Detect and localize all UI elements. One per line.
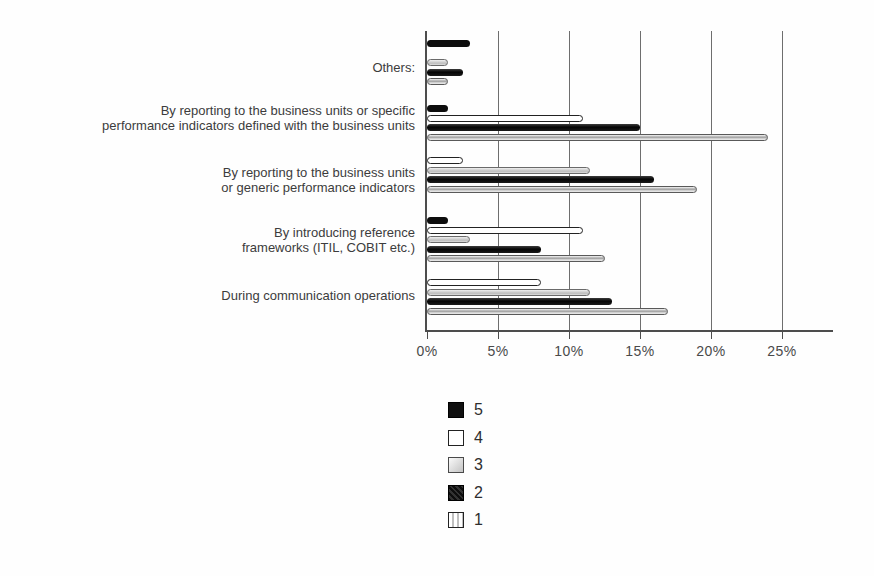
bar-series-2 (427, 298, 612, 305)
bar-series-1 (427, 255, 605, 262)
category-label-line: or generic performance indicators (5, 180, 415, 195)
bar-row (427, 78, 470, 85)
bar-group (427, 279, 668, 317)
legend-item-3: 3 (448, 456, 483, 474)
bar-series-3 (427, 289, 590, 296)
x-axis-tick (427, 330, 428, 339)
bar-row (427, 50, 470, 57)
bar-series-4 (427, 115, 583, 122)
bar-series-4 (427, 279, 541, 286)
bar-series-2 (427, 69, 463, 76)
bar-row (427, 105, 768, 112)
category-label-line: By introducing reference (5, 225, 415, 240)
bar-row (427, 176, 697, 183)
bar-row (427, 227, 605, 234)
bar-series-1 (427, 186, 697, 193)
x-tick-label: 20% (681, 343, 741, 359)
bar-row (427, 186, 697, 193)
legend-swatch-2 (448, 485, 464, 501)
bar-row (427, 308, 668, 315)
x-tick-label: 10% (539, 343, 599, 359)
bar-series-1 (427, 134, 768, 141)
legend-item-1: 1 (448, 511, 483, 529)
legend-swatch-3 (448, 457, 464, 473)
bar-series-1 (427, 308, 668, 315)
category-label: By introducing referenceframeworks (ITIL… (5, 225, 415, 255)
x-axis-line (425, 330, 833, 332)
bar-row (427, 236, 605, 243)
bar-series-5 (427, 105, 448, 112)
x-axis-tick (640, 330, 641, 339)
bar-row (427, 59, 470, 66)
category-label-line: By reporting to the business units or sp… (5, 103, 415, 118)
bar-series-1 (427, 78, 448, 85)
bar-row (427, 115, 768, 122)
bar-group (427, 40, 470, 88)
bar-row (427, 279, 668, 286)
legend-swatch-4 (448, 430, 464, 446)
legend-label-4: 4 (474, 429, 483, 447)
category-label: By reporting to the business units or sp… (5, 103, 415, 133)
bar-row (427, 40, 470, 47)
x-tick-label: 5% (468, 343, 528, 359)
x-axis-tick (782, 330, 783, 339)
category-label: By reporting to the business unitsor gen… (5, 165, 415, 195)
bar-row (427, 298, 668, 305)
x-tick-label: 15% (610, 343, 670, 359)
legend-label-2: 2 (474, 484, 483, 502)
category-label-line: During communication operations (5, 288, 415, 303)
bar-row (427, 246, 605, 253)
gridline-25pct (782, 31, 783, 330)
x-axis-tick (711, 330, 712, 339)
category-label-line: frameworks (ITIL, COBIT etc.) (5, 240, 415, 255)
gridline-20pct (711, 31, 712, 330)
category-label: Others: (5, 60, 415, 75)
category-label-line: By reporting to the business units (5, 165, 415, 180)
x-tick-label: 0% (397, 343, 457, 359)
bar-group (427, 217, 605, 265)
legend-swatch-1 (448, 512, 464, 528)
x-axis-tick (498, 330, 499, 339)
category-label-line: Others: (5, 60, 415, 75)
bar-series-4 (427, 227, 583, 234)
bar-row (427, 157, 697, 164)
bar-series-2 (427, 246, 541, 253)
x-tick-label: 25% (752, 343, 812, 359)
bar-row (427, 289, 668, 296)
legend-item-2: 2 (448, 484, 483, 502)
legend-label-3: 3 (474, 456, 483, 474)
bar-row (427, 255, 605, 262)
legend-label-1: 1 (474, 511, 483, 529)
bar-series-2 (427, 176, 654, 183)
category-label-line: performance indicators defined with the … (5, 118, 415, 133)
bar-row (427, 134, 768, 141)
category-label: During communication operations (5, 288, 415, 303)
bar-row (427, 69, 470, 76)
bar-series-4 (427, 157, 463, 164)
bar-series-3 (427, 236, 470, 243)
legend-item-4: 4 (448, 429, 483, 447)
bar-row (427, 124, 768, 131)
bar-row (427, 167, 697, 174)
bar-row (427, 217, 605, 224)
x-axis-tick (569, 330, 570, 339)
legend-label-5: 5 (474, 401, 483, 419)
bar-series-5 (427, 40, 470, 47)
legend-item-5: 5 (448, 401, 483, 419)
bar-series-2 (427, 124, 640, 131)
bar-series-3 (427, 167, 590, 174)
figure: 0%5%10%15%20%25% Others:By reporting to … (0, 0, 874, 576)
bar-group (427, 157, 697, 195)
bar-series-3 (427, 59, 448, 66)
legend-swatch-5 (448, 402, 464, 418)
bar-group (427, 105, 768, 143)
bar-series-5 (427, 217, 448, 224)
